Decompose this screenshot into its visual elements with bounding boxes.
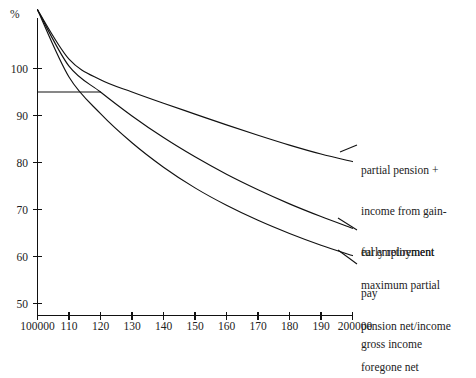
curve-maximum-partial-pension-net — [38, 10, 353, 256]
annotation-line: foregone net — [361, 361, 451, 375]
x-tick-label: 120 — [92, 320, 110, 332]
x-tick-label: 100000 — [20, 320, 55, 332]
y-tick-label: 70 — [17, 204, 29, 216]
x-tick-label: 140 — [155, 320, 173, 332]
x-tick-label: 130 — [123, 320, 141, 332]
x-tick-label: 180 — [281, 320, 299, 332]
curve-early-retirement-pay — [38, 10, 353, 229]
leader-line-maximum-partial-pension — [338, 250, 357, 264]
y-tick-label: 90 — [17, 110, 29, 122]
annotation-line: pension net/income — [361, 320, 451, 334]
x-tick-label: 170 — [249, 320, 267, 332]
x-tick-label: 110 — [61, 320, 78, 332]
x-tick-label: 160 — [218, 320, 236, 332]
annotation-line: partial pension + — [361, 164, 447, 178]
curve-partial-pension-plus-income — [38, 10, 353, 162]
y-tick-label: 60 — [17, 251, 29, 263]
leader-line-partial-pension — [340, 145, 357, 152]
annotation-line: maximum partial — [361, 279, 451, 293]
annotation-maximum-partial-pension: maximum partial pension net/income foreg… — [361, 252, 451, 378]
annotation-line: income from gain- — [361, 205, 447, 219]
y-axis-title: % — [10, 8, 20, 20]
y-tick-label: 100 — [11, 63, 29, 75]
x-tick-label: 190 — [312, 320, 330, 332]
y-tick-label: 80 — [17, 157, 29, 169]
x-tick-label: 150 — [186, 320, 204, 332]
y-tick-label: 50 — [17, 298, 29, 310]
